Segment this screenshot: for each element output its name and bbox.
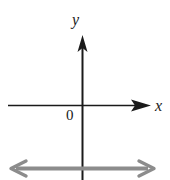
y-axis-label: y <box>72 12 79 28</box>
origin-label: 0 <box>66 108 74 123</box>
coordinate-plane-figure: y x 0 <box>0 0 170 180</box>
x-axis-label: x <box>155 98 162 114</box>
coordinate-plane-svg <box>0 0 170 180</box>
